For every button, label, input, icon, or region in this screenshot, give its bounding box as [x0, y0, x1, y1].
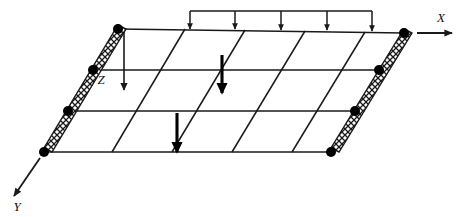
grid-line-oblique	[112, 29, 185, 152]
skew-slab-diagram: Z X Y	[0, 0, 460, 217]
grid-line-oblique	[232, 31, 305, 152]
left-support-edge	[44, 25, 126, 152]
distributed-load-top-edge	[190, 11, 372, 31]
grid-line-oblique	[292, 32, 365, 152]
support-node	[374, 65, 384, 75]
grid-oblique-members	[112, 29, 365, 152]
support-node	[326, 147, 336, 157]
grid-line-horizontal	[118, 29, 404, 33]
support-node	[399, 28, 409, 38]
support-node	[39, 147, 49, 157]
support-node	[63, 106, 73, 116]
y-axis-label: Y	[13, 199, 22, 214]
grid-line-oblique	[172, 30, 245, 152]
y-axis-arrow	[14, 158, 40, 196]
x-axis: X	[417, 10, 452, 33]
support-node	[113, 24, 123, 34]
x-axis-label: X	[436, 10, 446, 25]
support-node	[350, 106, 360, 116]
diagram-canvas: Z X Y	[0, 0, 460, 217]
right-support-edge	[331, 29, 412, 152]
z-axis-label: Z	[97, 72, 105, 87]
y-axis: Y	[13, 158, 40, 214]
